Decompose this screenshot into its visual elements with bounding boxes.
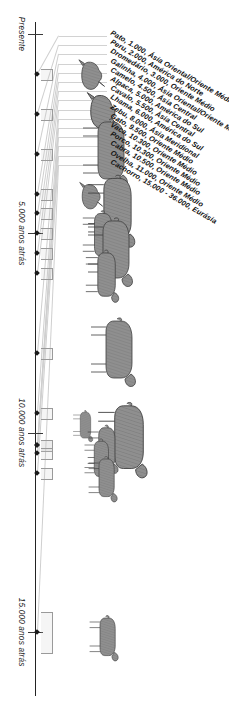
range-bracket-ovelha [41,468,53,480]
duck-icon [77,57,107,93]
range-bracket-cabra [41,448,53,460]
axis-label-15000: 15.000 anos atrás [17,598,26,667]
range-bracket-zebu [41,348,53,360]
range-bracket-alpaca [41,228,53,240]
axis-label-present: Presente [17,17,26,51]
label-stem [59,45,107,46]
axis-tick-0 [28,34,43,35]
dog-icon [88,614,120,662]
timeline-dot-peru[interactable] [34,111,40,117]
range-bracket-cavalo [41,248,53,260]
rotated-figure-canvas: Pato, 1.000, Ásia Oriental/Oriente Médio… [0,0,229,708]
timeline-dot-ovelha[interactable] [34,470,40,476]
range-bracket-pato [41,69,53,81]
timeline-axis [35,22,36,696]
zebu-icon [89,317,137,389]
axis-label-10000: 10.000 anos atrás [17,398,26,467]
range-bracket-camelo [41,208,53,220]
timeline-dot-dromedário[interactable] [34,151,40,157]
range-bracket-galinha [41,189,53,201]
sheep-icon [87,455,119,503]
figure-root: Pato, 1.000, Ásia Oriental/Oriente Médio… [0,0,229,708]
axis-label-5000: 5.000 anos atrás [17,201,26,265]
range-bracket-dromedário [41,149,53,161]
llama-icon [84,248,121,303]
label-stem [59,36,107,37]
range-bracket-lhama [41,268,53,280]
timeline-canvas: Pato, 1.000, Ásia Oriental/Oriente Médio… [0,0,229,708]
range-bracket-cachorro [41,612,53,654]
range-bracket-gato [41,408,53,420]
axis-tick-10000 [28,433,43,434]
range-bracket-peru [41,109,53,121]
label-stem [59,54,107,55]
